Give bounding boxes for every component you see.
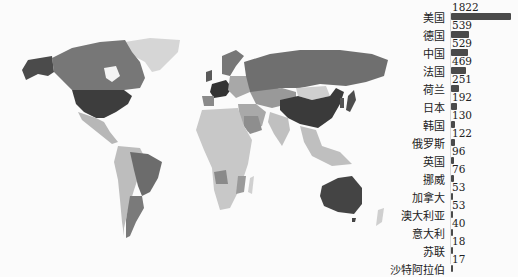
bar-value-label: 1822 — [452, 2, 479, 13]
bar-value-label: 96 — [452, 146, 465, 157]
bar-row: 中国529 — [380, 38, 518, 56]
bar-value-label: 53 — [452, 182, 465, 193]
bar-value-label: 40 — [452, 218, 465, 229]
region-india — [268, 112, 290, 146]
bar-value-label: 17 — [452, 254, 465, 265]
region-angola — [214, 170, 228, 184]
bar-value-label: 539 — [452, 20, 472, 31]
bar-value-label: 529 — [452, 38, 472, 49]
bar-row: 挪威76 — [380, 164, 518, 182]
bar-value-label: 53 — [452, 200, 465, 211]
bar-value-label: 76 — [452, 164, 465, 175]
bar-category-label: 沙特阿拉伯 — [390, 261, 445, 277]
region-scandinavia — [222, 50, 244, 76]
bar — [451, 265, 453, 272]
region-russia — [244, 50, 388, 92]
bar-value-label: 18 — [452, 236, 465, 247]
bar-value-label: 469 — [452, 56, 472, 67]
bar-value-label: 192 — [452, 92, 472, 103]
region-southeast-asia — [300, 126, 352, 166]
region-madagascar — [248, 176, 254, 194]
bar-value-label: 122 — [452, 128, 472, 139]
bar-row: 韩国130 — [380, 110, 518, 128]
region-alaska — [22, 56, 54, 80]
region-uk — [206, 70, 212, 82]
region-tasmania — [352, 218, 356, 222]
bar-row: 意大利40 — [380, 218, 518, 236]
country-bar-chart: 美国1822德国539中国529法国469荷兰251日本192韩国130俄罗斯1… — [380, 0, 518, 270]
bar-row: 美国1822 — [380, 2, 518, 20]
bar-row: 加拿大53 — [380, 182, 518, 200]
region-japan — [346, 90, 356, 112]
bar-row: 英国96 — [380, 146, 518, 164]
bar-row: 荷兰251 — [380, 74, 518, 92]
bar-row: 法国469 — [380, 56, 518, 74]
bar-row: 日本192 — [380, 92, 518, 110]
region-iberia — [202, 96, 214, 106]
region-korea — [340, 98, 344, 108]
bar-row: 俄罗斯122 — [380, 128, 518, 146]
bar-row: 德国539 — [380, 20, 518, 38]
region-east-europe — [228, 76, 250, 98]
bar-row: 沙特阿拉伯17 — [380, 254, 518, 272]
bar-row: 苏联18 — [380, 236, 518, 254]
bar-value-label: 130 — [452, 110, 472, 121]
bar-row: 澳大利亚53 — [380, 200, 518, 218]
world-choropleth-map — [0, 0, 400, 270]
bar-value-label: 251 — [452, 74, 472, 85]
region-australia — [320, 176, 362, 214]
